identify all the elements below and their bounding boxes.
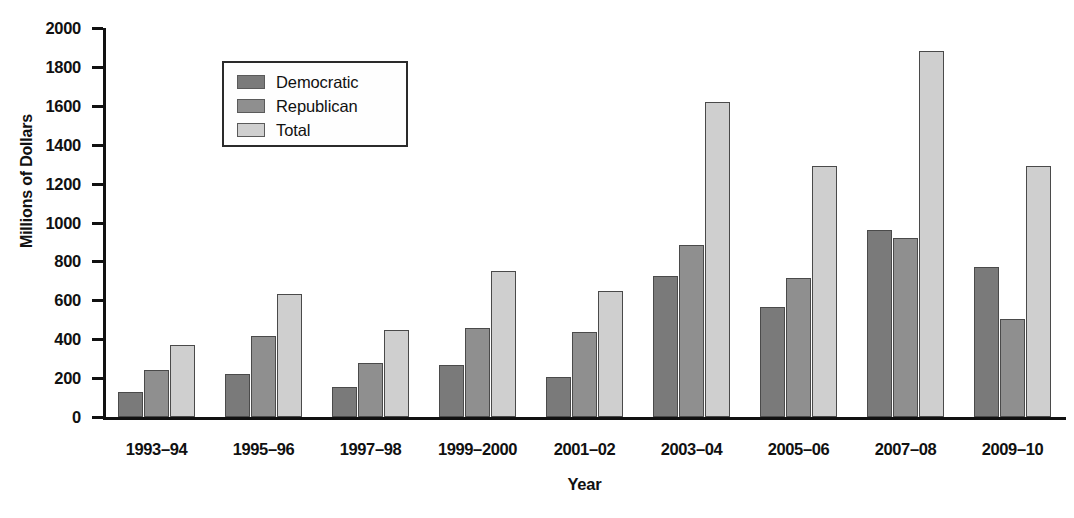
y-tick-mark: [92, 260, 103, 263]
bar-republican[interactable]: [893, 238, 918, 417]
bar-republican[interactable]: [251, 336, 276, 417]
legend-rows: DemocraticRepublicanTotal: [237, 70, 406, 142]
bar-total[interactable]: [598, 291, 623, 417]
x-tick-label: 2009–10: [943, 440, 1074, 459]
bar-democratic[interactable]: [760, 307, 785, 417]
bar-total[interactable]: [919, 51, 944, 417]
y-tick-mark: [92, 183, 103, 186]
bar-democratic[interactable]: [974, 267, 999, 417]
y-tick-label: 1400: [0, 137, 81, 154]
y-tick-label: 1800: [0, 59, 81, 76]
bar-republican[interactable]: [144, 370, 169, 417]
bar-democratic[interactable]: [439, 365, 464, 418]
legend-item-republican[interactable]: Republican: [237, 94, 406, 118]
y-tick-label: 400: [0, 331, 81, 348]
bar-republican[interactable]: [572, 332, 597, 417]
legend-item-democratic[interactable]: Democratic: [237, 70, 406, 94]
y-tick-label: 600: [0, 292, 81, 309]
bar-republican[interactable]: [465, 328, 490, 417]
bar-democratic[interactable]: [118, 392, 143, 417]
bar-republican[interactable]: [679, 245, 704, 417]
bar-group: [653, 28, 730, 417]
bar-group: [439, 28, 516, 417]
bar-group: [546, 28, 623, 417]
legend-item-total[interactable]: Total: [237, 118, 406, 142]
bar-total[interactable]: [1026, 166, 1051, 417]
y-tick-mark: [92, 377, 103, 380]
x-axis-line: [103, 417, 1066, 420]
bar-democratic[interactable]: [225, 374, 250, 417]
legend: DemocraticRepublicanTotal: [222, 61, 408, 147]
x-axis-title: Year: [103, 475, 1066, 494]
bar-republican[interactable]: [358, 363, 383, 417]
legend-label: Republican: [276, 98, 358, 115]
bar-total[interactable]: [384, 330, 409, 417]
legend-swatch-icon: [237, 75, 265, 89]
bar-democratic[interactable]: [546, 377, 571, 417]
y-tick-mark: [92, 299, 103, 302]
bar-republican[interactable]: [786, 278, 811, 417]
y-tick-label: 800: [0, 253, 81, 270]
bar-group: [760, 28, 837, 417]
bar-total[interactable]: [170, 345, 195, 417]
y-tick-label: 0: [0, 409, 81, 426]
x-axis-labels: 1993–941995–961997–981999–20002001–02200…: [103, 440, 1066, 466]
bar-total[interactable]: [812, 166, 837, 417]
bar-total[interactable]: [491, 271, 516, 417]
legend-swatch-icon: [237, 99, 265, 113]
bar-group: [974, 28, 1051, 417]
y-tick-mark: [92, 144, 103, 147]
bar-total[interactable]: [277, 294, 302, 418]
bar-group: [867, 28, 944, 417]
bar-democratic[interactable]: [332, 387, 357, 417]
bar-group: [118, 28, 195, 417]
plot-area: 0200400600800100012001400160018002000 De…: [103, 28, 1066, 420]
legend-label: Democratic: [276, 74, 358, 91]
legend-swatch-icon: [237, 123, 265, 137]
y-tick-mark: [92, 416, 103, 419]
bar-chart: Millions of Dollars 02004006008001000120…: [0, 0, 1074, 518]
bar-republican[interactable]: [1000, 319, 1025, 417]
bar-democratic[interactable]: [867, 230, 892, 417]
y-tick-mark: [92, 222, 103, 225]
y-tick-label: 1200: [0, 176, 81, 193]
y-tick-label: 200: [0, 370, 81, 387]
y-tick-label: 1600: [0, 98, 81, 115]
y-tick-mark: [92, 66, 103, 69]
y-tick-label: 2000: [0, 20, 81, 37]
y-tick-mark: [92, 338, 103, 341]
y-tick-mark: [92, 27, 103, 30]
bar-democratic[interactable]: [653, 276, 678, 417]
y-tick-label: 1000: [0, 215, 81, 232]
bar-total[interactable]: [705, 102, 730, 417]
y-tick-mark: [92, 105, 103, 108]
legend-label: Total: [276, 122, 310, 139]
